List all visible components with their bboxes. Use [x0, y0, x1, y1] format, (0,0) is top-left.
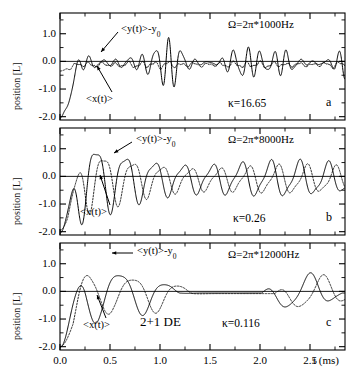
y-tick-label: 1.0: [26, 257, 56, 269]
kappa-label-panel-c: κ=0.116: [222, 317, 260, 329]
x-tick-label: 1.0: [143, 354, 177, 366]
y-tick-label: -1.0: [26, 82, 56, 94]
figure-root: position [L] position [L] position [L] t…: [0, 0, 362, 372]
series-label-y-panel-b: <y(t)>-y0: [136, 134, 176, 147]
x-tick-label: 1.5: [193, 354, 227, 366]
x-tick-label: 2.5: [293, 354, 327, 366]
omega-label-panel-b: Ω=2π*8000Hz: [228, 133, 294, 145]
y-tick-label: 1.0: [26, 27, 56, 39]
y-tick-label: -2.0: [26, 225, 56, 237]
x-tick-label: 0.5: [93, 354, 127, 366]
y-tick-label: 0.0: [26, 54, 56, 66]
kappa-label-panel-b: κ=0.26: [233, 212, 265, 224]
y-axis-label-panel-a: position [L]: [11, 63, 22, 111]
y-tick-label: -2.0: [26, 340, 56, 352]
y-tick-label: 0.0: [26, 284, 56, 296]
y-tick-label: 1.0: [26, 142, 56, 154]
series-label-x-panel-b: <x(t)>: [80, 207, 107, 218]
series-label-y-panel-c: <y(t)>-y0: [137, 246, 177, 259]
series-label-y-panel-a: <y(t)>-y0: [121, 24, 161, 37]
y-tick-label: -2.0: [26, 110, 56, 122]
y-axis-label-panel-b: position [L]: [11, 178, 22, 226]
panel-letter-c: c: [326, 315, 331, 330]
kappa-label-panel-a: κ=16.65: [228, 97, 266, 109]
x-tick-label: 0.0: [43, 354, 77, 366]
panel-letter-b: b: [326, 210, 332, 225]
omega-label-panel-a: Ω=2π*1000Hz: [228, 18, 294, 30]
series-label-x-panel-a: <x(t)>: [86, 94, 113, 105]
y-axis-label-panel-c: position [L]: [11, 293, 22, 341]
y-tick-label: 0.0: [26, 169, 56, 181]
y-tick-label: -1.0: [26, 312, 56, 324]
x-tick-label: 2.0: [243, 354, 277, 366]
model-tag: 2+1 DE: [140, 314, 181, 330]
series-label-x-panel-c: <x(t)>: [83, 320, 110, 331]
omega-label-panel-c: Ω=2π*12000Hz: [228, 248, 299, 260]
y-tick-label: -1.0: [26, 197, 56, 209]
panel-letter-a: a: [326, 95, 331, 110]
